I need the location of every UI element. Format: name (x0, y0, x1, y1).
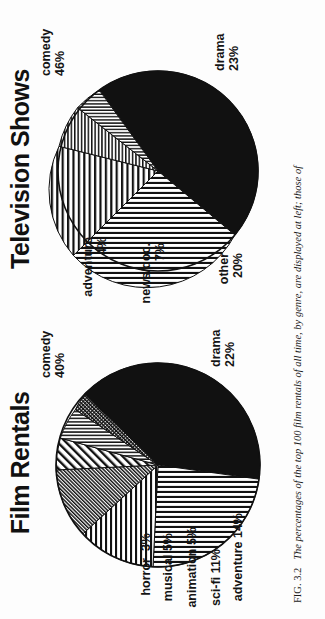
label-drama-tv: drama 23% (214, 33, 241, 71)
label-horror-film-text: horror (139, 558, 153, 596)
label-newsdoc-tv-pct: 7% (153, 243, 167, 261)
label-comedy-film-pct: 40% (53, 353, 67, 378)
label-musical-film-text: musical (161, 555, 175, 602)
label-newsdoc-tv: news/doc. 7% (140, 243, 167, 319)
label-musical-film-pct: 5% (161, 533, 175, 551)
label-drama-tv-pct: 23% (227, 46, 241, 71)
chart-film-rentals: Film Rentals (0, 313, 282, 613)
label-horror-film: horror 3% (140, 533, 154, 613)
label-drama-film: drama 22% (210, 329, 237, 367)
label-drama-film-pct: 22% (223, 342, 237, 367)
label-comedy-tv-pct: 46% (53, 51, 67, 76)
figure-caption-number: FIG. 3.2 (292, 568, 303, 603)
label-newsdoc-tv-text: news/doc. (139, 243, 153, 303)
label-scifi-film-pct: 11% (209, 549, 223, 573)
chart-title-film-rentals: Film Rentals (6, 313, 35, 613)
chart-title-television-shows: Television Shows (6, 19, 35, 319)
figure-caption: FIG. 3.2 The percentages of the top 100 … (292, 11, 303, 603)
label-comedy-film: comedy 40% (40, 331, 67, 378)
figure-page: Film Rentals (0, 0, 325, 619)
label-horror-film-pct: 3% (139, 533, 153, 551)
label-comedy-film-text: comedy (39, 331, 53, 378)
label-adventure-tv: adventure 4% (82, 237, 109, 319)
label-adventure-tv-text: adventure (81, 237, 95, 297)
label-animation-film-pct: 5% (185, 527, 199, 545)
label-other-tv-pct: 20% (231, 253, 245, 278)
label-scifi-film-text: sci-fi (209, 577, 223, 606)
label-animation-film: animation 5% (186, 527, 200, 613)
chart-television-shows: Television Shows (0, 19, 282, 319)
label-drama-tv-text: drama (213, 33, 227, 71)
figure-area: Film Rentals (0, 0, 282, 619)
label-musical-film: musical 5% (162, 533, 176, 613)
label-adventure-tv-pct: 4% (95, 237, 109, 255)
label-comedy-tv: comedy 46% (40, 29, 67, 76)
label-other-tv: other 20% (218, 253, 245, 319)
label-adventure-film-pct: 14% (231, 513, 245, 538)
label-animation-film-text: animation (185, 549, 199, 608)
label-scifi-film: sci-fi 11% (210, 549, 224, 613)
label-other-tv-text: other (217, 253, 231, 284)
label-drama-film-text: drama (209, 329, 223, 367)
label-adventure-film-text: adventure (231, 542, 245, 602)
label-comedy-tv-text: comedy (39, 29, 53, 76)
figure-caption-text: The percentages of the top 100 film rent… (292, 166, 303, 560)
label-adventure-film: adventure 14% (232, 513, 246, 603)
